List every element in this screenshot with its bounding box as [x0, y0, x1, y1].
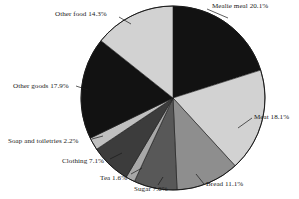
slice-label-other-goods: Other goods 17.9%	[13, 83, 69, 90]
pie-slice-group	[81, 6, 265, 190]
slice-label-tea: Tea 1.6%	[100, 175, 127, 182]
slice-label-mealie-meal: Mealie meal 20.1%	[212, 3, 268, 10]
pie-chart-figure: Mealie meal 20.1% Meat 18.1% Bread 11.1%…	[0, 0, 299, 199]
slice-label-clothing: Clothing 7.1%	[62, 158, 104, 165]
slice-label-soap-and-toiletries: Soap and toiletries 2.2%	[8, 138, 79, 145]
slice-label-meat: Meat 18.1%	[254, 114, 289, 121]
slice-label-other-food: Other food 14.3%	[55, 11, 107, 18]
pie-chart-svg	[0, 0, 299, 199]
slice-label-sugar: Sugar 7.6%	[134, 186, 168, 193]
slice-label-bread: Bread 11.1%	[206, 181, 243, 188]
